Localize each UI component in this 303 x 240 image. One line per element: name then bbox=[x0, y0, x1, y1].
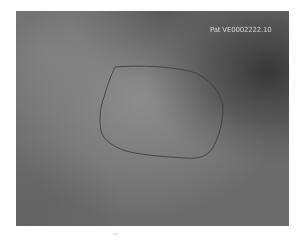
image-id-label: Pat VE0002222.10 bbox=[210, 26, 272, 34]
image-frame: Pat VE0002222.10 bbox=[16, 11, 289, 226]
scan-artifact bbox=[113, 233, 118, 235]
grayscale-image bbox=[16, 11, 289, 226]
